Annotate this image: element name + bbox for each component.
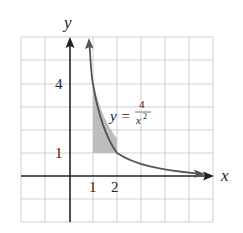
chart: y x 4 1 1 2 y = 4 x 2: [0, 0, 243, 233]
x-tick-2: 2: [111, 179, 119, 195]
equation-label: y = 4 x 2: [108, 98, 151, 126]
svg-text:y =: y =: [108, 108, 131, 124]
y-tick-1: 1: [55, 145, 63, 161]
y-axis-label: y: [62, 13, 72, 32]
svg-text:x: x: [135, 114, 141, 126]
x-tick-1: 1: [89, 179, 97, 195]
svg-text:4: 4: [139, 98, 145, 110]
y-tick-4: 4: [55, 76, 63, 92]
x-axis-label: x: [220, 166, 229, 185]
svg-text:2: 2: [143, 112, 147, 121]
